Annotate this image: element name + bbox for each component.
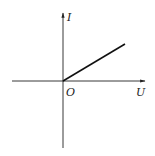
- origin-label: O: [66, 86, 75, 99]
- characteristic-line: [63, 44, 125, 81]
- x-axis-label: U: [136, 86, 146, 99]
- y-axis-label: I: [66, 11, 72, 24]
- iu-graph: I O U: [0, 0, 155, 156]
